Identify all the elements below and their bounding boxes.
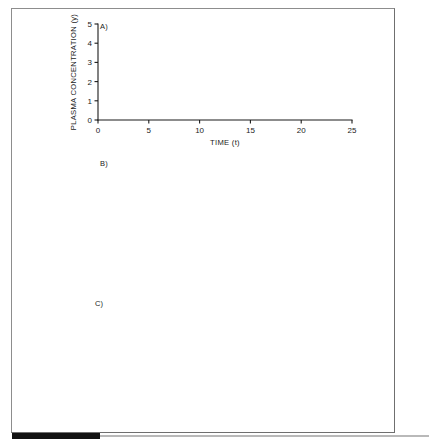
panel-a-x-ticklabel: 25 [348, 126, 357, 135]
figure-page: A) 0123450510152025TIME (t)PLASMA CONCEN… [0, 0, 429, 445]
panel-a-x-ticklabel: 0 [96, 126, 101, 135]
scan-artifact-bar [12, 433, 100, 439]
scan-bottom-edge [100, 435, 429, 437]
panel-a-x-ticklabel: 10 [195, 126, 204, 135]
panel-a-plot: 0123450510152025TIME (t)PLASMA CONCENTRA… [22, 12, 382, 152]
panel-a-y-ticklabel: 1 [88, 97, 93, 106]
panel-c: C) [22, 292, 382, 437]
panel-b-letter: B) [100, 159, 108, 168]
panel-a: A) 0123450510152025TIME (t)PLASMA CONCEN… [22, 12, 382, 152]
panel-b-plot [22, 152, 382, 292]
panel-a-y-ticklabel: 5 [88, 20, 93, 29]
panel-c-plot [22, 292, 382, 437]
panel-a-y-ticklabel: 0 [88, 116, 93, 125]
panel-a-y-ticklabel: 3 [88, 58, 93, 67]
panel-c-letter: C) [95, 299, 103, 308]
panel-a-letter: A) [100, 22, 108, 31]
panel-a-y-ticklabel: 2 [88, 78, 93, 87]
panel-a-y-axis-title: PLASMA CONCENTRATION (y) [69, 14, 78, 131]
panel-a-x-ticklabel: 15 [246, 126, 255, 135]
panel-a-x-ticklabel: 5 [147, 126, 152, 135]
panel-a-x-axis-title: TIME (t) [210, 138, 240, 147]
panel-a-x-ticklabel: 20 [297, 126, 306, 135]
panel-a-y-ticklabel: 4 [88, 39, 93, 48]
panel-b: B) [22, 152, 382, 292]
